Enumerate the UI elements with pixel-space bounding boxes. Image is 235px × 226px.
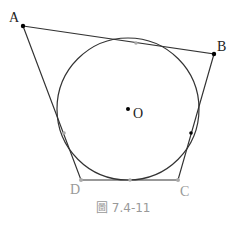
tangent-point-left [62, 131, 66, 135]
tangent-point-top [134, 41, 138, 45]
quadrilateral-ABCD [23, 26, 214, 180]
figure-caption: 圖 7.4-11 [96, 201, 151, 215]
label-D: D [70, 182, 80, 197]
point-C [176, 178, 180, 182]
label-A: A [9, 10, 20, 25]
point-B [212, 52, 216, 56]
label-C: C [180, 184, 189, 199]
point-A [21, 24, 25, 28]
label-B: B [217, 39, 226, 54]
tangent-point-right [189, 131, 193, 135]
point-O [126, 107, 130, 111]
label-O: O [133, 106, 143, 121]
quadrilateral-incircle-diagram: A B C D O 圖 7.4-11 [0, 0, 235, 226]
tangent-point-bottom [128, 178, 132, 182]
